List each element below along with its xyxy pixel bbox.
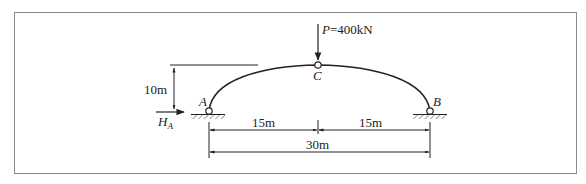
label-b: B bbox=[433, 94, 441, 109]
label-a: A bbox=[198, 94, 207, 109]
label-c: C bbox=[313, 68, 322, 83]
figure-border bbox=[15, 13, 577, 174]
dim-left-half-label: 15m bbox=[252, 115, 275, 130]
support-b-hatch bbox=[413, 115, 447, 119]
three-hinged-arch-diagram: 10m P=400kN C A B HA 15m 15m 30m bbox=[0, 0, 586, 184]
support-a-hatch bbox=[191, 115, 225, 119]
load-label: P=400kN bbox=[321, 22, 373, 37]
dim-span-label: 30m bbox=[306, 137, 329, 152]
reaction-ha-label: HA bbox=[157, 114, 173, 131]
dim-right-half-label: 15m bbox=[359, 115, 382, 130]
rise-label: 10m bbox=[144, 82, 167, 97]
